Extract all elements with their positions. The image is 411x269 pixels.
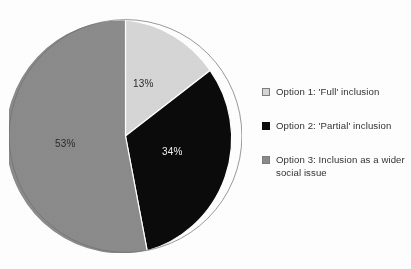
chart-legend: Option 1: 'Full' inclusion Option 2: 'Pa…	[262, 85, 408, 200]
pie-label-option-3: 53%	[55, 138, 76, 149]
legend-item-option-3[interactable]: Option 3: Inclusion as a wider social is…	[262, 153, 408, 179]
pie-chart-figure: 13% 34% 53% Option 1: 'Full' inclusion O…	[0, 0, 411, 269]
legend-item-option-2[interactable]: Option 2: 'Partial' inclusion	[262, 119, 408, 132]
pie-svg	[9, 19, 242, 253]
legend-swatch-icon-option-1	[262, 88, 270, 96]
legend-label-option-3: Option 3: Inclusion as a wider social is…	[276, 153, 408, 179]
legend-swatch-icon-option-2	[262, 122, 270, 130]
legend-swatch-icon-option-3	[262, 156, 270, 164]
pie-label-option-2: 34%	[162, 146, 183, 157]
legend-label-option-2: Option 2: 'Partial' inclusion	[276, 119, 391, 132]
legend-item-option-1[interactable]: Option 1: 'Full' inclusion	[262, 85, 408, 98]
legend-label-option-1: Option 1: 'Full' inclusion	[276, 85, 379, 98]
pie-chart-graphic	[9, 19, 242, 253]
pie-label-option-1: 13%	[133, 78, 154, 89]
